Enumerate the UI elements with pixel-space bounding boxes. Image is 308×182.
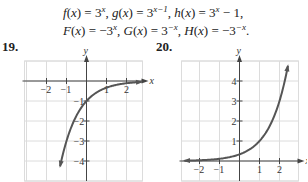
x-tick-label: 2: [124, 84, 129, 95]
y-tick-label: 2: [232, 116, 237, 127]
x-tick-label: 2: [277, 164, 282, 175]
x-tick-label: −1: [61, 84, 72, 95]
graphs: xy−2−112−1−2−3−4 xy−2−1121234: [0, 0, 307, 182]
curve-arrow-icon: [183, 158, 190, 163]
x-axis-arrow-icon: [298, 159, 305, 164]
y-tick-label: −3: [74, 136, 85, 147]
x-tick-label: 1: [104, 84, 109, 95]
y-axis-label: y: [83, 45, 89, 56]
x-axis-arrow-icon: [142, 79, 149, 84]
x-axis-label: x: [149, 75, 155, 86]
x-tick-label: −2: [194, 164, 205, 175]
curve-arrow-icon: [284, 64, 289, 71]
x-tick-label: 1: [257, 164, 262, 175]
y-tick-label: −4: [74, 156, 85, 167]
y-tick-label: 4: [232, 76, 237, 87]
graph-19: xy−2−112−1−2−3−4: [23, 45, 155, 181]
y-axis-arrow-icon: [237, 55, 242, 62]
y-tick-label: 3: [232, 96, 237, 107]
y-axis-label: y: [236, 45, 242, 56]
function-curve: [60, 82, 141, 166]
x-tick-label: −2: [41, 84, 52, 95]
curve-arrow-icon: [59, 160, 64, 167]
x-tick-label: −1: [214, 164, 225, 175]
graph-20: xy−2−1121234: [180, 45, 308, 181]
x-axis-label: x: [305, 155, 308, 166]
y-tick-label: 1: [232, 136, 237, 147]
y-axis-arrow-icon: [84, 55, 89, 62]
